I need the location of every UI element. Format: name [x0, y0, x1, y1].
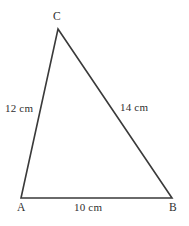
triangle-outline	[21, 29, 172, 198]
vertex-label-c: C	[53, 11, 61, 23]
side-label-ab: 10 cm	[74, 202, 102, 213]
side-label-ac: 12 cm	[5, 103, 33, 114]
vertex-label-a: A	[17, 202, 25, 214]
side-label-cb: 14 cm	[120, 102, 148, 113]
triangle-figure: C A B 12 cm 14 cm 10 cm	[0, 0, 189, 226]
vertex-label-b: B	[169, 202, 177, 214]
